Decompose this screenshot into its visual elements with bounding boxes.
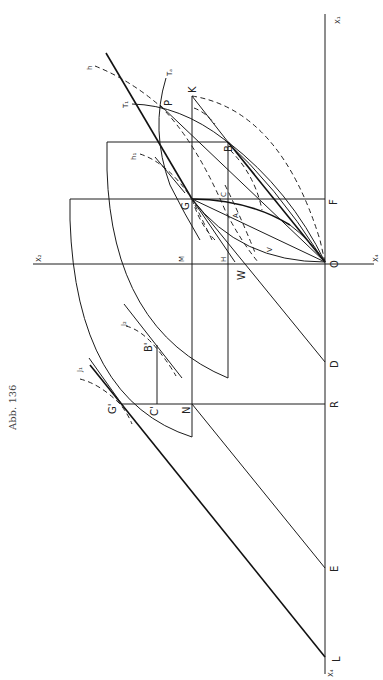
label-f: F xyxy=(328,199,339,205)
figure-caption: Abb. 136 xyxy=(7,385,18,431)
label-b: B xyxy=(223,145,234,152)
arc-g-rotation xyxy=(70,199,192,437)
label-h1: h₁ xyxy=(130,153,138,160)
label-a: A xyxy=(232,213,240,218)
line-g-d xyxy=(192,199,325,362)
label-ta: Tₐ xyxy=(166,69,174,77)
label-t1: T₁ xyxy=(122,101,130,109)
label-c-prime: C' xyxy=(149,406,160,416)
tangent-b-prime xyxy=(124,304,182,378)
label-b-prime: B' xyxy=(143,342,154,352)
label-p: P xyxy=(163,100,174,106)
label-g: G xyxy=(180,202,191,210)
label-c: C xyxy=(220,192,228,197)
dash-b xyxy=(230,150,262,210)
label-k: K xyxy=(187,86,198,93)
label-x1: X₁ xyxy=(334,16,342,24)
label-r: R xyxy=(329,401,340,408)
tangent-upper xyxy=(106,53,192,199)
label-m: M xyxy=(178,256,186,262)
label-l: L xyxy=(331,656,342,662)
label-n: N xyxy=(181,407,192,414)
label-x4-top: X₄ xyxy=(372,254,380,262)
label-w: W xyxy=(236,270,247,280)
tangent-g-prime-top xyxy=(89,358,126,410)
line-n-e xyxy=(192,404,325,568)
label-x4-bottom: X₄ xyxy=(327,669,335,677)
label-o: O xyxy=(329,260,340,268)
tangent-upper-ext xyxy=(192,199,235,262)
label-j2: J₂ xyxy=(120,321,128,327)
label-v: V xyxy=(266,247,274,252)
geometric-construction-figure: Abb. 136 xyxy=(0,0,383,680)
line-g-o xyxy=(192,199,325,262)
curve-h xyxy=(95,66,258,262)
label-h-point: H xyxy=(220,257,228,262)
label-d: D xyxy=(329,360,340,368)
label-j1: J₁ xyxy=(76,367,84,373)
label-g-prime: G' xyxy=(107,404,118,415)
line-p-o xyxy=(160,105,325,262)
label-e: E xyxy=(329,566,340,572)
label-x2: X₂ xyxy=(35,254,43,262)
label-h: h xyxy=(86,66,94,70)
